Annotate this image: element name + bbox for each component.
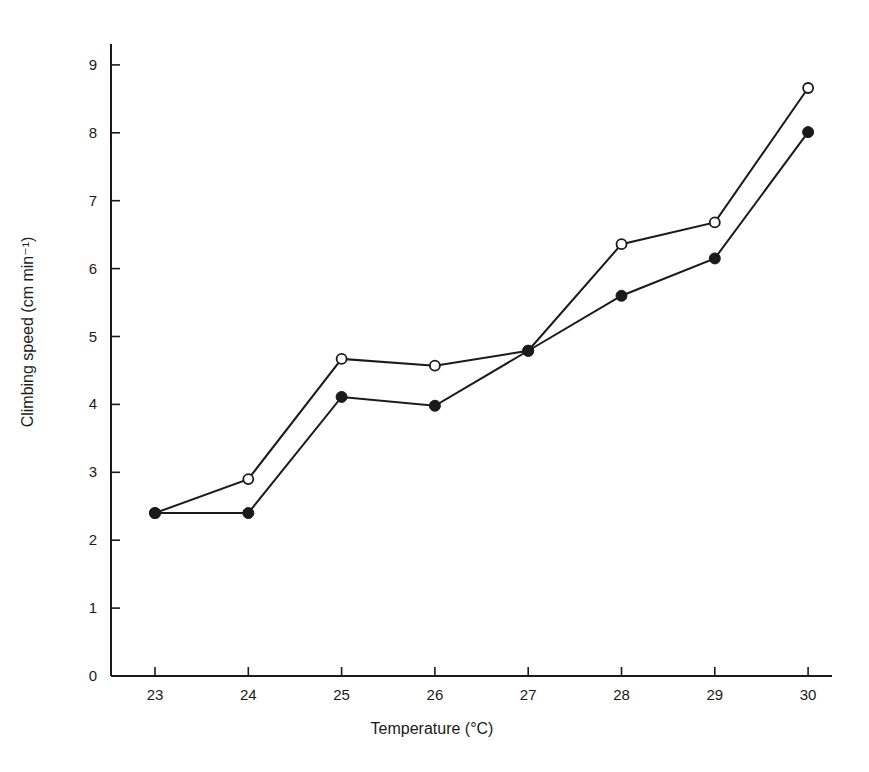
filled-circle-marker xyxy=(243,508,254,519)
open-circle-marker xyxy=(430,361,440,371)
x-tick-label: 28 xyxy=(613,686,630,703)
y-tick-label: 2 xyxy=(89,531,97,548)
x-tick-label: 30 xyxy=(800,686,817,703)
x-tick-label: 24 xyxy=(240,686,257,703)
y-tick-label: 9 xyxy=(89,56,97,73)
series-line xyxy=(155,132,808,513)
open-circle-marker xyxy=(710,217,720,227)
y-tick-label: 5 xyxy=(89,328,97,345)
y-tick-label: 4 xyxy=(89,395,97,412)
y-tick-label: 6 xyxy=(89,260,97,277)
line-chart: 0123456789 2324252627282930 Temperature … xyxy=(0,0,869,772)
series-filled xyxy=(155,132,808,513)
y-tick-label: 7 xyxy=(89,192,97,209)
x-axis-title: Temperature (°C) xyxy=(371,720,494,737)
open-circle-marker xyxy=(803,83,813,93)
x-tick-label: 29 xyxy=(706,686,723,703)
open-circle-marker xyxy=(337,354,347,364)
filled-circle-marker xyxy=(150,508,161,519)
series-layer xyxy=(150,83,814,519)
y-axis: 0123456789 xyxy=(89,44,120,684)
filled-circle-marker xyxy=(523,345,534,356)
filled-circle-marker xyxy=(709,253,720,264)
x-tick-label: 27 xyxy=(520,686,537,703)
x-tick-label: 25 xyxy=(333,686,350,703)
y-tick-label: 3 xyxy=(89,463,97,480)
y-axis-title: Climbing speed (cm min⁻¹) xyxy=(19,237,36,428)
x-axis: 2324252627282930 xyxy=(111,667,832,703)
x-tick-label: 26 xyxy=(427,686,444,703)
y-tick-label: 1 xyxy=(89,599,97,616)
filled-circle-marker xyxy=(616,290,627,301)
markers-filled xyxy=(150,127,814,519)
x-tick-label: 23 xyxy=(147,686,164,703)
y-tick-label: 8 xyxy=(89,124,97,141)
series-line xyxy=(155,88,808,513)
markers-open xyxy=(150,83,813,518)
open-circle-marker xyxy=(617,239,627,249)
y-tick-label: 0 xyxy=(89,667,97,684)
open-circle-marker xyxy=(243,474,253,484)
series-open xyxy=(155,88,808,513)
filled-circle-marker xyxy=(429,400,440,411)
filled-circle-marker xyxy=(803,127,814,138)
filled-circle-marker xyxy=(336,391,347,402)
